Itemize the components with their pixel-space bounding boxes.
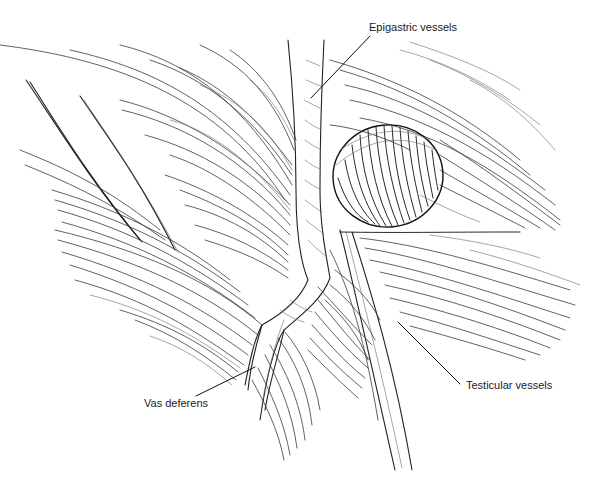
illustration-canvas: [0, 0, 592, 490]
left-muscle-hatching: [0, 45, 296, 278]
lower-fan-hatching: [252, 332, 320, 460]
label-vas-deferens: Vas deferens: [144, 397, 208, 409]
anatomical-illustration: [0, 0, 592, 490]
lower-right-muscle-hatching: [325, 232, 580, 360]
lower-left-muscle-hatching: [20, 150, 262, 385]
hernia-sac: [328, 120, 448, 233]
label-testicular-vessels: Testicular vessels: [466, 379, 552, 391]
testicular-vessels-lines: [330, 230, 412, 470]
label-epigastric-vessels: Epigastric vessels: [369, 21, 457, 33]
upper-right-muscle-hatching: [330, 42, 560, 230]
